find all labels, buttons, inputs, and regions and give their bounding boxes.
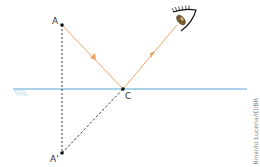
virtual-ray-dashed-line <box>62 89 123 153</box>
point-a-prime <box>60 151 64 155</box>
image-credit: Rinaldo Lucena/ID/BR <box>252 98 259 165</box>
incident-arrow-icon <box>90 53 96 60</box>
label-c: C <box>125 92 131 101</box>
reflection-diagram: A C A' Rinaldo Lucena/ID/BR <box>0 0 260 167</box>
point-a <box>60 23 64 27</box>
diagram-canvas <box>0 0 260 167</box>
label-a: A <box>52 17 58 26</box>
mirror-hatch-icon <box>14 90 28 96</box>
reflected-ray <box>123 25 177 89</box>
reflected-arrow-icon <box>150 51 155 58</box>
label-a-prime: A' <box>50 155 59 164</box>
